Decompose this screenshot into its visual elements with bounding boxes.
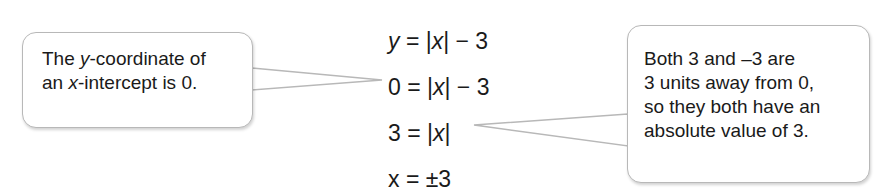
callout-right-line-3: so they both have an bbox=[644, 95, 869, 119]
callout-right: Both 3 and –3 are 3 units away from 0, s… bbox=[627, 25, 870, 183]
callout-right-line-1: Both 3 and –3 are bbox=[644, 47, 869, 71]
callout-right-line-2: 3 units away from 0, bbox=[644, 71, 869, 95]
callout-left-line-2: an x-intercept is 0. bbox=[42, 71, 252, 95]
equation-3: 3 = |x| bbox=[388, 110, 489, 156]
equation-steps: y = |x| − 3 0 = |x| − 3 3 = |x| x = ±3 bbox=[388, 18, 489, 189]
equation-1: y = |x| − 3 bbox=[388, 18, 489, 64]
callout-left: The y-coordinate of an x-intercept is 0. bbox=[22, 32, 253, 128]
callout-right-line-4: absolute value of 3. bbox=[644, 119, 869, 143]
equation-2: 0 = |x| − 3 bbox=[388, 64, 489, 110]
callout-left-line-1: The y-coordinate of bbox=[42, 47, 252, 71]
equation-4: x = ±3 bbox=[388, 156, 489, 189]
